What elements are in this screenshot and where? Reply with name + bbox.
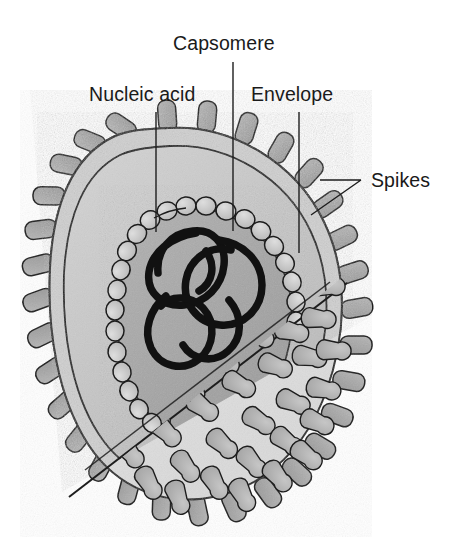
label-capsomere: Capsomere bbox=[173, 32, 275, 54]
surface-spike bbox=[316, 339, 352, 361]
label-nucleic-acid: Nucleic acid bbox=[89, 83, 195, 105]
spike bbox=[339, 296, 374, 319]
capsomere bbox=[196, 197, 217, 216]
virus-diagram: Capsomere Nucleic acid Envelope Spikes bbox=[0, 0, 461, 555]
label-envelope: Envelope bbox=[251, 83, 333, 105]
capsomere bbox=[106, 321, 124, 341]
label-spikes: Spikes bbox=[371, 169, 430, 191]
virus-illustration: Capsomere Nucleic acid Envelope Spikes bbox=[0, 0, 461, 555]
